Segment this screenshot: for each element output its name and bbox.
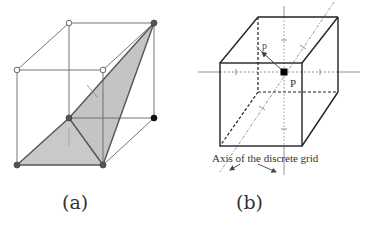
cube-front-face <box>220 63 302 146</box>
point-p-label: P <box>290 77 296 89</box>
vertex-filled-bottom-front-left <box>14 162 20 168</box>
vertex-hollow-top-front-left <box>14 67 20 73</box>
caption-a: (a) <box>62 191 88 213</box>
point-p-marker <box>281 69 288 76</box>
projected-point-label: p <box>262 40 267 51</box>
figure-canvas: (a) <box>0 0 376 237</box>
panel-b-cube <box>198 2 360 175</box>
vertex-filled-bottom-back-left <box>66 115 72 121</box>
annotation-arrow-right <box>258 164 276 172</box>
axis-annotation: Axis of the discrete grid <box>212 152 319 164</box>
panel-a-cube <box>14 20 157 168</box>
annotation-arrow-left <box>230 164 240 170</box>
vertex-filled-bottom-back-right <box>151 115 157 121</box>
vertex-filled-top-back-right <box>151 20 157 26</box>
vertex-hollow-top-front-right <box>100 67 106 73</box>
projection-arrow <box>262 52 283 71</box>
vertex-hollow-top-back-left <box>66 20 72 26</box>
vertex-filled-bottom-front-right <box>100 162 106 168</box>
caption-b: (b) <box>236 191 263 213</box>
